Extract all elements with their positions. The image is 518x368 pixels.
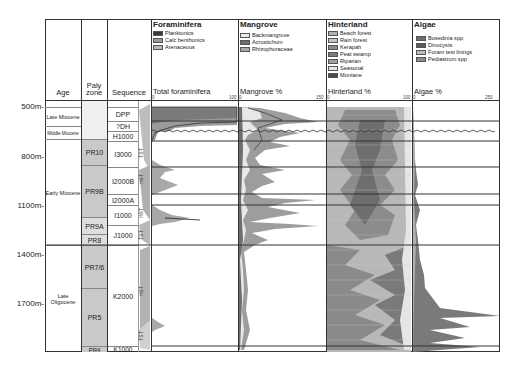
st-label-tst: TST bbox=[138, 148, 144, 157]
systems-tract-wedges bbox=[139, 104, 150, 350]
st-label-hst: HST bbox=[138, 286, 144, 296]
st-label-tst: TST bbox=[138, 230, 144, 239]
st-label-hst: HST bbox=[138, 208, 144, 218]
hinterland-series bbox=[327, 107, 411, 352]
st-label-tst: TST bbox=[138, 331, 144, 340]
st-label-hst: HST bbox=[138, 174, 144, 184]
algae-series bbox=[413, 107, 500, 352]
chart-graphics bbox=[0, 0, 518, 368]
unconformity-line bbox=[151, 130, 495, 132]
mangrove-series bbox=[239, 107, 318, 350]
